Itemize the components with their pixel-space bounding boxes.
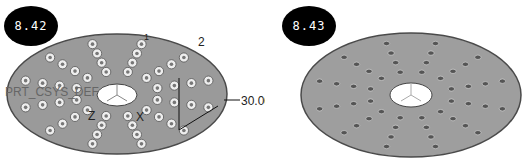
marker-label: 1: [144, 32, 149, 42]
figure-8-43: 8.43: [265, 0, 530, 164]
disk-with-bosses: PRT_CSYS_DEF Z X 2 1 30.00: [0, 0, 265, 164]
csys-label: PRT_CSYS_DEF: [5, 85, 99, 99]
dimension-count-label: 2: [198, 35, 205, 49]
disk-with-holes: [265, 0, 530, 164]
figure-8-42: 8.42 PRT_CSYS_DEF Z X 2 1 30.00: [0, 0, 265, 164]
axis-x-label: X: [136, 110, 144, 124]
dimension-angle-label: 30.00: [241, 94, 265, 108]
axis-z-label: Z: [88, 109, 95, 123]
